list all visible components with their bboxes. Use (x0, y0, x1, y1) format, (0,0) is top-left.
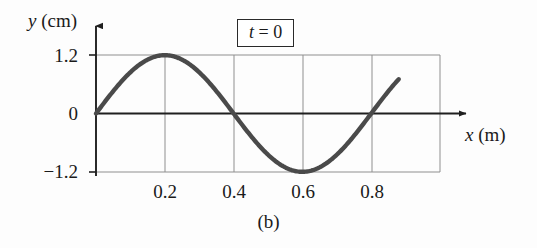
figure-caption: (b) (0, 211, 537, 233)
wave-figure: y (cm) x (m) 1.2 0 −1.2 0.2 0.4 0.6 0.8 … (0, 0, 537, 248)
y-tick-label-zero: 0 (18, 103, 78, 125)
x-tick-label-2: 0.6 (278, 181, 328, 203)
y-tick-label-upper: 1.2 (18, 45, 78, 67)
x-tick-label-0: 0.2 (140, 181, 190, 203)
time-equals: = (254, 22, 273, 42)
x-axis-unit: (m) (478, 124, 505, 145)
y-axis-label: y (cm) (28, 10, 77, 32)
time-value: 0 (273, 22, 282, 42)
y-axis-unit: (cm) (41, 10, 77, 31)
x-axis-label: x (m) (465, 124, 506, 146)
x-tick-label-1: 0.4 (209, 181, 259, 203)
x-tick-label-3: 0.8 (347, 181, 397, 203)
y-tick-label-lower: −1.2 (18, 161, 78, 183)
time-annotation-badge: t = 0 (237, 19, 294, 47)
